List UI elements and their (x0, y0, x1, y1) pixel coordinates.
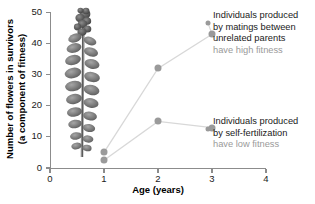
y-tick-mark (46, 136, 50, 137)
data-point (155, 118, 162, 125)
annotation-low-line1: Individuals produced (213, 116, 298, 128)
x-tick-mark (265, 169, 266, 173)
annotation-marker-dot (206, 21, 211, 26)
y-axis-line (50, 12, 51, 169)
annotation-low-fitness: Individuals produced by self-fertilizati… (213, 116, 298, 151)
y-tick-mark (46, 74, 50, 75)
series-line (104, 34, 212, 152)
annotation-low-line3: have low fitness (213, 139, 298, 151)
data-point (101, 149, 108, 156)
annotation-high-line1: Individuals produced (213, 10, 298, 22)
x-tick-label: 4 (256, 173, 276, 184)
x-tick-label: 1 (94, 173, 114, 184)
annotation-low-line2: by self-fertilization (213, 128, 298, 140)
plant-photograph (63, 5, 103, 165)
x-tick-label: 3 (202, 173, 222, 184)
y-tick-mark (46, 12, 50, 13)
y-tick-mark (46, 105, 50, 106)
y-tick-mark (46, 43, 50, 44)
x-tick-mark (49, 169, 50, 173)
annotation-marker-dot (206, 127, 211, 132)
y-tick-label: 30 (16, 68, 42, 79)
x-tick-mark (103, 169, 104, 173)
chart-figure: Number of flowers in survivors (a compon… (0, 0, 315, 204)
y-tick-label: 20 (16, 99, 42, 110)
x-tick-mark (157, 169, 158, 173)
x-tick-label: 0 (40, 173, 60, 184)
annotation-high-line4: have high fitness (213, 45, 298, 57)
x-tick-label: 2 (148, 173, 168, 184)
y-tick-label: 40 (16, 37, 42, 48)
annotation-high-line2: by matings between (213, 22, 298, 34)
series-line (104, 121, 212, 160)
y-tick-label: 50 (16, 6, 42, 17)
x-tick-mark (211, 169, 212, 173)
data-point (155, 65, 162, 72)
data-point (101, 157, 108, 164)
y-tick-label: 0 (16, 162, 42, 173)
annotation-high-line3: unrelated parents (213, 33, 298, 45)
y-tick-label: 10 (16, 130, 42, 141)
annotation-high-fitness: Individuals produced by matings between … (213, 10, 298, 56)
